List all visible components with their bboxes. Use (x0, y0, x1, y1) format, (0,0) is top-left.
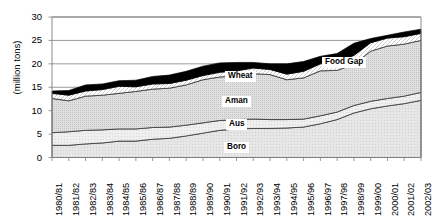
x-tick-label: 1998/99 (357, 182, 366, 215)
x-tick-label: 2002/03 (424, 182, 433, 215)
y-tick-label: 20 (14, 59, 42, 69)
series-label-aus: Aus (226, 119, 247, 130)
x-tick-label: 1985/86 (139, 182, 148, 215)
x-tick-label: 1983/84 (106, 182, 115, 215)
x-tick-label: 1982/83 (89, 182, 98, 215)
y-tick-label: 30 (14, 12, 42, 22)
x-tick-label: 1991/92 (240, 182, 249, 215)
x-tick-label: 1980/81 (55, 182, 64, 215)
x-tick-label: 1995/96 (307, 182, 316, 215)
y-tick-label: 15 (14, 82, 42, 92)
y-tick-label: 25 (14, 35, 42, 45)
x-tick-label: 1993/94 (273, 182, 282, 215)
x-tick-label: 2000/01 (391, 182, 400, 215)
x-tick-label: 1987/88 (173, 182, 182, 215)
x-tick-label: 1990/91 (223, 182, 232, 215)
x-tick-label: 1992/93 (256, 182, 265, 215)
series-label-aman: Aman (222, 96, 251, 107)
x-tick-label: 1996/97 (324, 182, 333, 215)
x-tick-label: 1999/00 (374, 182, 383, 215)
x-tick-label: 2001/02 (407, 182, 416, 215)
y-tick-label: 5 (14, 129, 42, 139)
y-tick-label: 0 (14, 153, 42, 163)
area-series-layer (52, 29, 421, 157)
stacked-area-chart: (million tons) 051015202530 F (0, 0, 441, 220)
x-tick-label: 1981/82 (72, 182, 81, 215)
x-tick-label: 1984/85 (122, 182, 131, 215)
x-tick-label: 1988/89 (189, 182, 198, 215)
y-tick-label: 10 (14, 106, 42, 116)
x-tick-label: 1994/95 (290, 182, 299, 215)
x-tick-label: 1989/90 (206, 182, 215, 215)
series-label-food-gap: Food Gap (322, 57, 366, 68)
x-tick-label: 1997/98 (340, 182, 349, 215)
series-label-boro: Boro (224, 142, 249, 153)
series-label-wheat: Wheat (225, 71, 256, 82)
x-tick-label: 1986/87 (156, 182, 165, 215)
